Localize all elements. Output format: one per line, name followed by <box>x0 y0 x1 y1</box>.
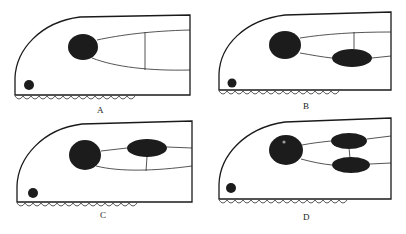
panel-label: C <box>100 210 106 220</box>
lower-branch-end <box>370 163 391 164</box>
large-organ <box>68 34 98 60</box>
upper-branch <box>302 141 331 145</box>
small-dot <box>24 80 34 90</box>
upper-oval <box>127 139 167 157</box>
small-dot <box>28 188 38 198</box>
head-outline <box>219 12 391 90</box>
large-organ <box>269 31 301 59</box>
head-outline <box>17 121 192 202</box>
small-dot <box>228 79 237 88</box>
lower-branch <box>96 166 192 170</box>
panel-label: A <box>97 105 104 115</box>
lower-oval <box>332 49 372 67</box>
panel-label: B <box>303 101 309 111</box>
upper-branch-end <box>167 147 192 148</box>
diagram-canvas: A B C D <box>0 0 406 234</box>
lower-oval <box>332 157 370 173</box>
panel-b: B <box>219 12 391 111</box>
panel-d: D <box>219 118 391 222</box>
teeth-row <box>219 200 347 203</box>
head-outline <box>219 118 391 199</box>
large-organ <box>69 140 101 170</box>
teeth-row <box>15 96 135 99</box>
lower-branch <box>92 58 190 70</box>
panel-c: C <box>17 121 192 220</box>
head-outline <box>15 15 190 95</box>
teeth-row <box>219 91 339 94</box>
vertical-link <box>349 148 350 158</box>
light-spot <box>282 140 285 143</box>
lower-branch-end <box>372 56 391 58</box>
lower-branch <box>301 159 332 165</box>
lower-branch <box>300 53 332 58</box>
upper-branch-end <box>367 136 391 139</box>
upper-branch <box>97 30 190 40</box>
panel-label: D <box>303 212 310 222</box>
large-organ <box>269 135 303 165</box>
panel-a: A <box>15 15 190 115</box>
upper-branch <box>300 32 391 38</box>
vertical-link <box>146 157 147 171</box>
small-dot <box>226 183 236 193</box>
upper-oval <box>331 133 367 149</box>
teeth-row <box>17 203 137 206</box>
upper-branch <box>101 148 127 151</box>
